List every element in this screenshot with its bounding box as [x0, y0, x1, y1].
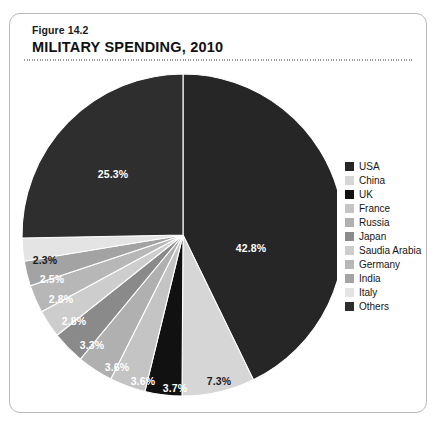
legend-item-label: Saudia Arabia	[359, 245, 421, 256]
legend-item[interactable]: USA	[345, 159, 437, 173]
legend-swatch-icon	[345, 218, 354, 227]
legend-swatch-icon	[345, 260, 354, 269]
pie-slice-label: 2.8%	[62, 315, 87, 327]
legend-item-label: China	[359, 175, 385, 186]
legend-item-label: Russia	[359, 217, 390, 228]
pie-slice-label: 3.6%	[105, 361, 130, 373]
pie-slice-label: 7.3%	[207, 375, 232, 387]
legend-item[interactable]: UK	[345, 187, 437, 201]
legend-item-label: France	[359, 203, 390, 214]
pie-slice-label: 2.3%	[33, 254, 58, 266]
legend-item-label: Japan	[359, 231, 386, 242]
pie-slice-group	[22, 74, 337, 396]
legend-item-label: USA	[359, 161, 380, 172]
pie-slice-label: 3.3%	[80, 339, 105, 351]
legend-item[interactable]: Germany	[345, 258, 437, 272]
pie-slice-label: 2.8%	[49, 293, 74, 305]
legend-item[interactable]: Saudia Arabia	[345, 244, 437, 258]
pie-slice-label: 3.7%	[163, 382, 188, 394]
pie-slice-label: 42.8%	[236, 242, 267, 254]
legend-swatch-icon	[345, 162, 354, 171]
figure-card: Figure 14.2 MILITARY SPENDING, 2010 42.8…	[9, 13, 427, 413]
pie-slice-label: 2.5%	[40, 273, 65, 285]
chart-legend: USAChinaUKFranceRussiaJapanSaudia Arabia…	[345, 159, 437, 314]
legend-item-label: Italy	[359, 287, 377, 298]
legend-item[interactable]: France	[345, 201, 437, 215]
legend-swatch-icon	[345, 190, 354, 199]
legend-item-label: Germany	[359, 259, 400, 270]
legend-item[interactable]: India	[345, 272, 437, 286]
legend-item-label: India	[359, 273, 381, 284]
legend-item-label: Others	[359, 301, 389, 312]
legend-swatch-icon	[345, 232, 354, 241]
legend-item[interactable]: Japan	[345, 229, 437, 243]
legend-swatch-icon	[345, 274, 354, 283]
legend-swatch-icon	[345, 288, 354, 297]
pie-chart: 42.8%7.3%3.7%3.6%3.6%3.3%2.8%2.8%2.5%2.3…	[12, 72, 337, 397]
legend-swatch-icon	[345, 176, 354, 185]
pie-slice-label: 25.3%	[98, 168, 129, 180]
legend-item[interactable]: Italy	[345, 286, 437, 300]
legend-item[interactable]: Russia	[345, 215, 437, 229]
legend-item-label: UK	[359, 189, 373, 200]
legend-item[interactable]: China	[345, 173, 437, 187]
legend-item[interactable]: Others	[345, 300, 437, 314]
pie-chart-svg: 42.8%7.3%3.7%3.6%3.6%3.3%2.8%2.8%2.5%2.3…	[12, 72, 337, 397]
legend-swatch-icon	[345, 302, 354, 311]
legend-swatch-icon	[345, 204, 354, 213]
pie-slice[interactable]	[22, 74, 183, 238]
pie-slice-label: 3.6%	[131, 375, 156, 387]
legend-swatch-icon	[345, 246, 354, 255]
chart-area: 42.8%7.3%3.7%3.6%3.6%3.3%2.8%2.8%2.5%2.3…	[10, 14, 428, 414]
